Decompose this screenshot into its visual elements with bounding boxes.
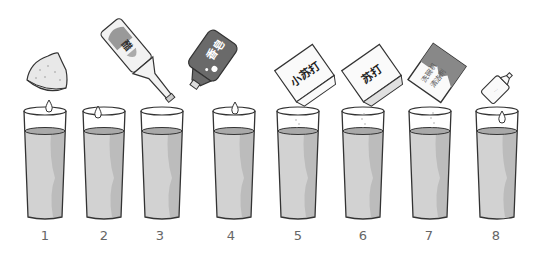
baking-soda-box-icon: 小苏打 [275,44,339,108]
drop-icon [46,100,52,112]
drop-icon [499,111,505,123]
item-number-3: 3 [150,228,170,243]
item-number-8: 8 [486,228,506,243]
item-number-4: 4 [221,228,241,243]
glass-1 [24,107,66,219]
vinegar-bottle-icon: 醋 [99,17,181,108]
glass-6 [342,107,384,219]
powder-stream [361,113,365,128]
drop-icon [232,102,238,114]
illustration: 醋 香皂 小苏打 苏打 洗碗机 清洁剂 [0,0,541,261]
glass-5 [277,107,319,219]
lemon-icon [27,53,67,91]
soda-box-icon: 苏打 [342,44,406,108]
glass-4 [213,107,255,219]
glass-8 [476,107,518,219]
glass-7 [409,107,451,219]
glass-3 [141,107,183,219]
dark-bottle-icon: 香皂 [178,28,240,96]
detergent-box-icon: 洗碗机 清洁剂 [408,44,466,103]
powder-stream [295,114,299,128]
item-number-2: 2 [94,228,114,243]
item-number-6: 6 [353,228,373,243]
small-bottle-icon: ··· [480,68,517,105]
item-number-1: 1 [35,228,55,243]
item-number-7: 7 [419,228,439,243]
item-number-5: 5 [288,228,308,243]
glass-2 [83,107,125,219]
